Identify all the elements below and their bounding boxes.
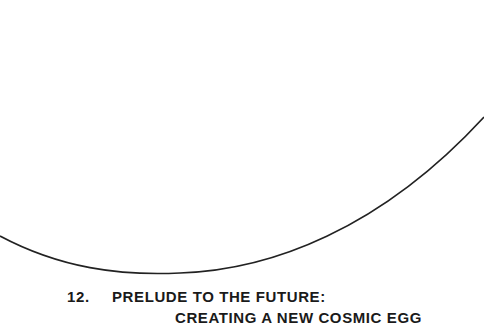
chapter-number: 12.	[67, 288, 90, 305]
cosmic-egg-arc	[0, 0, 484, 326]
chapter-title-line2: CREATING A NEW COSMIC EGG	[175, 309, 422, 326]
chapter-title-line1: PRELUDE TO THE FUTURE:	[112, 288, 326, 305]
